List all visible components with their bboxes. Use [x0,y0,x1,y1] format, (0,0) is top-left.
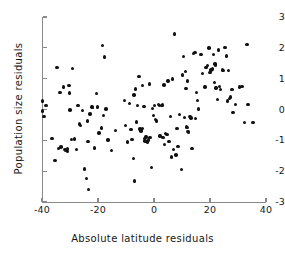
data-point [133,179,136,182]
x-tick-label: 0 [137,205,171,215]
data-point [174,153,177,156]
data-point [225,54,228,57]
data-point [178,113,181,116]
data-point [68,108,71,111]
data-point [79,124,82,127]
data-point [222,69,225,72]
data-point [185,126,188,129]
data-point [85,177,88,180]
data-point [148,82,151,85]
data-point [230,88,233,91]
data-point [136,104,139,107]
x-axis-label: Absolute latitude residuals [0,233,285,244]
data-point [76,104,79,107]
data-point [173,32,176,35]
data-point [124,124,127,127]
data-point [186,79,189,82]
data-point [193,51,196,54]
data-point [199,53,202,56]
data-point [66,147,69,150]
data-point [245,43,248,46]
data-point [152,114,155,117]
data-point [50,137,53,140]
data-point [181,73,184,76]
data-point [59,145,62,148]
data-point [212,53,215,56]
data-point [217,48,220,51]
data-point [53,159,56,162]
data-point [219,88,222,91]
data-point [184,70,187,73]
data-point [41,109,44,112]
data-point [67,84,70,87]
data-point [55,66,58,69]
data-point [91,106,94,109]
data-point [167,140,170,143]
data-point [114,129,117,132]
data-point [42,115,45,118]
data-point [162,83,165,86]
data-point [172,148,175,151]
data-point [68,91,71,94]
data-point [251,121,254,124]
x-tick-label: 20 [193,205,227,215]
data-point [207,46,210,49]
data-point [170,155,173,158]
data-point [86,119,89,122]
data-point [141,84,144,87]
data-point [176,145,179,148]
data-point [93,146,96,149]
data-point [134,87,137,90]
data-point [184,87,187,90]
data-point [97,131,100,134]
data-point [153,104,156,107]
y-axis-label: Population size residuals [13,29,24,189]
data-point [132,93,135,96]
data-point [203,85,206,88]
data-point [95,92,98,95]
data-point [229,95,232,98]
data-point [88,112,91,115]
data-point [195,91,198,94]
data-point [87,188,90,191]
data-point [240,85,243,88]
data-point [223,46,226,49]
data-point [211,68,214,71]
data-point [189,116,192,119]
data-point [137,75,140,78]
data-point [183,116,186,119]
data-point [96,105,99,108]
data-point [81,109,84,112]
data-point [163,143,166,146]
data-point [166,79,169,82]
data-point [161,136,164,139]
data-point [129,128,132,131]
data-point [190,147,193,150]
data-point [182,55,185,58]
data-point [214,63,217,66]
data-point [126,140,129,143]
data-point [155,119,158,122]
data-point [216,98,219,101]
data-point [201,72,204,75]
data-point [135,120,138,123]
data-point [151,107,154,110]
data-point [187,131,190,134]
data-point [161,103,164,106]
data-point [169,115,172,118]
data-point [101,44,104,47]
data-point [100,126,103,129]
data-point [75,148,78,151]
data-point [227,69,230,72]
data-point [106,138,109,141]
x-tick-label: -40 [25,205,59,215]
data-point [71,67,74,70]
data-point [150,166,153,169]
data-point [103,55,106,58]
data-point [130,138,133,141]
data-point [123,99,126,102]
data-point [180,168,183,171]
data-point [141,127,144,130]
data-point [165,133,168,136]
data-point [246,103,249,106]
